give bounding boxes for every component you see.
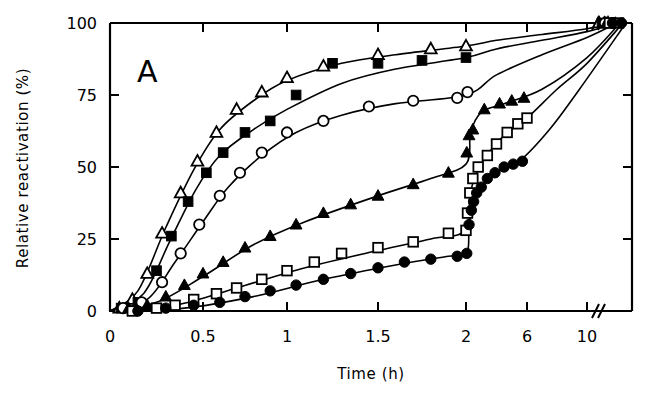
data-point <box>179 279 191 290</box>
y-axis-ticks <box>110 23 632 311</box>
data-point <box>215 191 225 201</box>
markers-series-open-triangle <box>113 17 614 313</box>
data-point <box>257 275 267 285</box>
data-point <box>373 243 383 253</box>
data-point <box>281 72 293 83</box>
data-point <box>425 43 437 54</box>
data-point <box>167 231 177 241</box>
curve-series-filled-square <box>110 23 614 311</box>
data-point <box>257 147 267 157</box>
data-point <box>461 146 473 157</box>
data-point <box>232 283 242 293</box>
plot-frame <box>110 23 632 311</box>
data-point <box>215 297 225 307</box>
data-point <box>328 59 338 69</box>
x-axis-title: Time (h) <box>336 365 405 383</box>
data-point <box>310 257 320 267</box>
data-point <box>502 128 512 138</box>
x-tick-label-4: 2 <box>461 327 471 346</box>
x-tick-label-5: 6 <box>522 327 532 346</box>
x-tick-label-6: 10 <box>577 327 597 346</box>
y-tick-label-1: 25 <box>77 230 97 249</box>
y-tick-label-3: 75 <box>77 86 97 105</box>
data-point <box>444 228 454 238</box>
y-axis-tick-labels: 0255075100 <box>66 14 97 321</box>
data-point <box>197 267 209 278</box>
data-point <box>408 237 418 247</box>
data-point <box>513 119 523 129</box>
curve-series-open-square <box>110 23 623 311</box>
curve-series-filled-triangle <box>110 23 620 311</box>
data-point <box>372 48 384 59</box>
data-point <box>468 174 478 184</box>
data-point <box>235 168 245 178</box>
data-point <box>161 303 171 313</box>
panel-label: A <box>137 54 158 89</box>
data-point <box>517 156 527 166</box>
data-point <box>364 101 374 111</box>
curve-series-open-circle <box>110 23 617 311</box>
y-tick-label-2: 50 <box>77 158 97 177</box>
data-point <box>202 168 212 178</box>
data-point <box>194 219 204 229</box>
data-point <box>452 251 462 261</box>
data-point <box>483 151 493 161</box>
data-point <box>417 56 427 66</box>
data-point <box>170 300 180 310</box>
x-tick-label-0: 0 <box>105 327 115 346</box>
data-point <box>461 53 471 63</box>
curve-series-open-triangle <box>110 23 611 311</box>
y-tick-label-0: 0 <box>87 302 97 321</box>
data-point <box>291 280 301 290</box>
data-point <box>318 116 328 126</box>
data-point <box>373 59 383 69</box>
x-tick-label-1: 0.5 <box>190 327 215 346</box>
data-markers <box>113 17 626 316</box>
data-point <box>240 291 250 301</box>
data-point <box>462 87 472 97</box>
data-point <box>616 18 626 28</box>
x-tick-label-2: 1 <box>282 327 292 346</box>
data-point <box>467 123 479 134</box>
fitted-curves <box>110 23 626 311</box>
data-point <box>152 303 162 313</box>
figure-panel-a: 00.511.52610 0255075100 Time (h) Relativ… <box>0 0 665 400</box>
data-point <box>183 197 193 207</box>
data-point <box>522 113 532 123</box>
data-point <box>452 93 462 103</box>
data-point <box>518 92 530 103</box>
data-point <box>492 139 502 149</box>
data-point <box>240 128 250 138</box>
data-point <box>337 249 347 259</box>
data-point <box>282 127 292 137</box>
data-point <box>282 266 292 276</box>
data-point <box>133 306 143 316</box>
data-point <box>291 90 301 100</box>
data-point <box>426 254 436 264</box>
data-point <box>399 257 409 267</box>
data-point <box>346 268 356 278</box>
data-point <box>318 207 330 218</box>
data-point <box>189 300 199 310</box>
data-point <box>473 162 483 172</box>
data-point <box>373 263 383 273</box>
x-axis-tick-labels: 00.511.52610 <box>105 327 597 346</box>
data-point <box>265 286 275 296</box>
data-point <box>152 266 162 276</box>
data-point <box>494 97 506 108</box>
data-point <box>464 219 474 229</box>
data-point <box>157 277 167 287</box>
y-tick-label-4: 100 <box>66 14 97 33</box>
data-point <box>462 248 472 258</box>
data-point <box>231 103 243 114</box>
x-tick-label-3: 1.5 <box>365 327 390 346</box>
curve-series-filled-circle <box>110 23 626 311</box>
data-point <box>265 116 275 126</box>
reactivation-chart: 00.511.52610 0255075100 Time (h) Relativ… <box>0 0 665 400</box>
data-point <box>175 248 185 258</box>
data-point <box>218 148 228 158</box>
data-point <box>490 168 500 178</box>
y-axis-title: Relative reactivation (%) <box>14 68 32 268</box>
data-point <box>318 274 328 284</box>
data-point <box>408 96 418 106</box>
